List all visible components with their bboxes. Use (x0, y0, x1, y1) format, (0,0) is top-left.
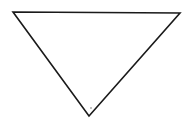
diagram-canvas (0, 0, 188, 122)
vertex-dot (90, 107, 91, 108)
inverted-triangle (13, 12, 180, 116)
triangle-figure (0, 0, 188, 122)
